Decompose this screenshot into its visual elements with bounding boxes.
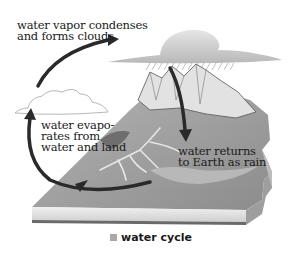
evaporation-cloud	[15, 89, 108, 114]
caption-text: water cycle	[121, 231, 192, 244]
caption-square-icon	[110, 234, 117, 241]
figure-caption: water cycle	[110, 231, 192, 244]
label-precipitation: water returns to Earth as rain	[178, 146, 266, 168]
label-evaporation: water evapo- rates from water and land	[41, 120, 126, 153]
arrow-evaporation-to-condensation	[38, 40, 108, 86]
label-condensation: water vapor condenses and forms clouds	[17, 20, 148, 42]
water-cycle-diagram: water vapor condenses and forms clouds w…	[0, 0, 292, 258]
